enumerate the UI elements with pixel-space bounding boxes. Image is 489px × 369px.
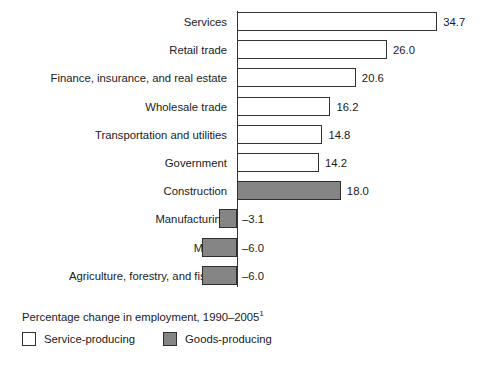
bar-row: Services34.7 xyxy=(0,8,489,36)
bar-value-label: 14.2 xyxy=(325,149,347,177)
category-label: Services xyxy=(0,8,227,36)
bar-row: Agriculture, forestry, and fishing–6.0 xyxy=(0,262,489,290)
bar-row: Construction18.0 xyxy=(0,177,489,205)
caption-text: Percentage change in employment, 1990–20… xyxy=(22,311,462,323)
bar-row: Mining–6.0 xyxy=(0,234,489,262)
bar-value-label: 20.6 xyxy=(362,64,384,92)
legend-swatch-service xyxy=(22,332,36,346)
legend-entry: Goods-producing xyxy=(163,332,272,346)
category-label: Construction xyxy=(0,177,227,205)
legend-swatch-goods xyxy=(163,332,177,346)
caption-label: Percentage change in employment, 1990–20… xyxy=(22,311,259,323)
bar-value-label: –3.1 xyxy=(242,205,264,233)
bar-service xyxy=(237,97,330,116)
legend-label: Service-producing xyxy=(44,333,135,345)
bar-value-label: 34.7 xyxy=(443,8,465,36)
bar-value-label: 26.0 xyxy=(393,36,415,64)
category-label: Wholesale trade xyxy=(0,93,227,121)
bar-row: Government14.2 xyxy=(0,149,489,177)
bar-row: Retail trade26.0 xyxy=(0,36,489,64)
category-label: Transportation and utilities xyxy=(0,121,227,149)
category-label: Government xyxy=(0,149,227,177)
caption-footnote-marker: 1 xyxy=(259,309,263,318)
chart-legend: Service-producingGoods-producing xyxy=(22,332,462,346)
bar-goods xyxy=(202,238,237,257)
bar-service xyxy=(237,153,319,172)
bar-row: Finance, insurance, and real estate20.6 xyxy=(0,64,489,92)
category-label: Mining xyxy=(0,234,227,262)
category-label: Retail trade xyxy=(0,36,227,64)
bar-value-label: –6.0 xyxy=(242,234,264,262)
bar-goods xyxy=(219,209,237,228)
bar-row: Transportation and utilities14.8 xyxy=(0,121,489,149)
legend-entry: Service-producing xyxy=(22,332,135,346)
category-label: Manufacturing xyxy=(0,205,227,233)
bar-service xyxy=(237,68,356,87)
bar-goods xyxy=(202,266,237,285)
bar-value-label: 14.8 xyxy=(328,121,350,149)
bar-service xyxy=(237,40,387,59)
chart-caption-block: Percentage change in employment, 1990–20… xyxy=(22,311,462,346)
bar-row: Manufacturing–3.1 xyxy=(0,205,489,233)
bar-service xyxy=(237,125,322,144)
bar-row: Wholesale trade16.2 xyxy=(0,93,489,121)
bar-goods xyxy=(237,181,341,200)
bar-value-label: –6.0 xyxy=(242,262,264,290)
bar-value-label: 18.0 xyxy=(347,177,369,205)
legend-label: Goods-producing xyxy=(185,333,272,345)
bar-chart: Services34.7Retail trade26.0Finance, ins… xyxy=(0,0,489,300)
category-label: Agriculture, forestry, and fishing xyxy=(0,262,227,290)
category-label: Finance, insurance, and real estate xyxy=(0,64,227,92)
bar-value-label: 16.2 xyxy=(336,93,358,121)
bar-service xyxy=(237,12,437,31)
